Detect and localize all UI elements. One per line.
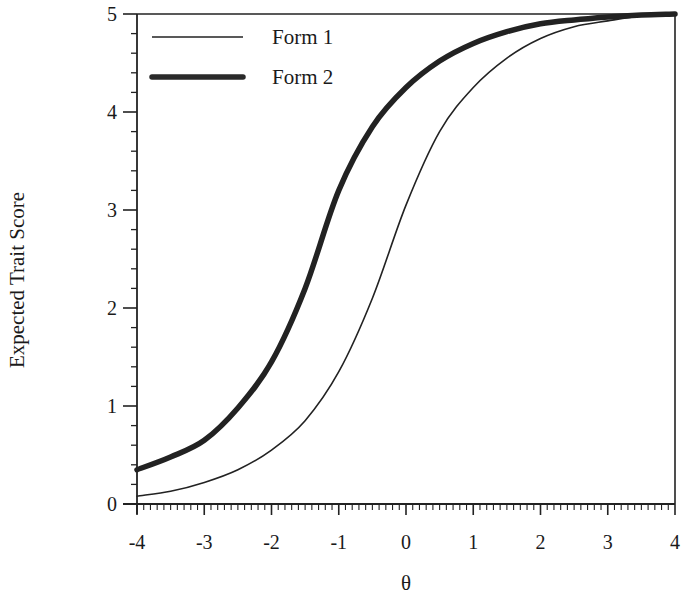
y-tick-label: 5	[107, 3, 117, 25]
x-tick-label: -3	[196, 531, 213, 553]
x-tick-label: 4	[670, 531, 680, 553]
x-axis-title: θ	[401, 571, 411, 595]
x-tick-label: -2	[263, 531, 280, 553]
x-tick-label: -4	[129, 531, 146, 553]
legend: Form 1 Form 2	[152, 25, 333, 89]
y-tick-label: 0	[107, 493, 117, 515]
series-layer	[137, 14, 675, 496]
series-line-form-2	[137, 14, 675, 470]
y-axis-title: Expected Trait Score	[5, 192, 29, 368]
chart-canvas: -4-3-2-101234 012345 Form 1 Form 2 θ Exp…	[0, 0, 690, 606]
x-tick-label: 1	[468, 531, 478, 553]
y-tick-label: 2	[107, 297, 117, 319]
x-tick-label: -1	[330, 531, 347, 553]
x-tick-label: 2	[536, 531, 546, 553]
y-tick-label: 3	[107, 199, 117, 221]
y-tick-label: 1	[107, 395, 117, 417]
legend-label-form-1: Form 1	[272, 25, 333, 49]
y-axis: 012345	[107, 3, 137, 515]
x-tick-label: 3	[603, 531, 613, 553]
legend-label-form-2: Form 2	[272, 65, 333, 89]
y-tick-label: 4	[107, 101, 117, 123]
x-tick-label: 0	[401, 531, 411, 553]
x-axis: -4-3-2-101234	[123, 504, 680, 553]
